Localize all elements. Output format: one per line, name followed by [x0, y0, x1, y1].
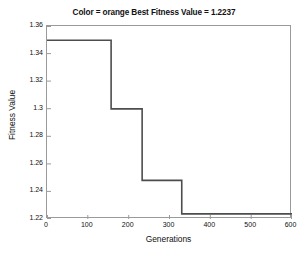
x-tick-label: 100 — [72, 221, 102, 229]
y-tick-label: 1.26 — [29, 159, 43, 167]
fitness-step-line — [47, 40, 292, 214]
y-tick-label: 1.34 — [29, 49, 43, 57]
y-tick-label: 1.28 — [29, 131, 43, 139]
x-tick-label: 300 — [154, 221, 184, 229]
x-tick-label: 600 — [276, 221, 306, 229]
plot-area — [46, 25, 291, 218]
x-tick-marks — [48, 215, 292, 219]
fitness-chart-figure: Color = orange Best Fitness Value = 1.22… — [0, 0, 308, 260]
x-tick-label: 500 — [235, 221, 265, 229]
fitness-step-line-svg — [47, 26, 292, 219]
y-tick-label: 1.36 — [29, 21, 43, 29]
x-axis-label: Generations — [46, 234, 291, 244]
x-tick-label: 400 — [194, 221, 224, 229]
chart-title: Color = orange Best Fitness Value = 1.22… — [0, 8, 308, 17]
y-tick-label: 1.32 — [29, 76, 43, 84]
y-tick-marks — [47, 27, 51, 219]
x-tick-label: 200 — [113, 221, 143, 229]
x-tick-label: 0 — [31, 221, 61, 229]
y-tick-label: 1.24 — [29, 186, 43, 194]
y-axis-label: Fitness Value — [7, 65, 17, 165]
y-tick-label: 1.3 — [33, 104, 43, 112]
